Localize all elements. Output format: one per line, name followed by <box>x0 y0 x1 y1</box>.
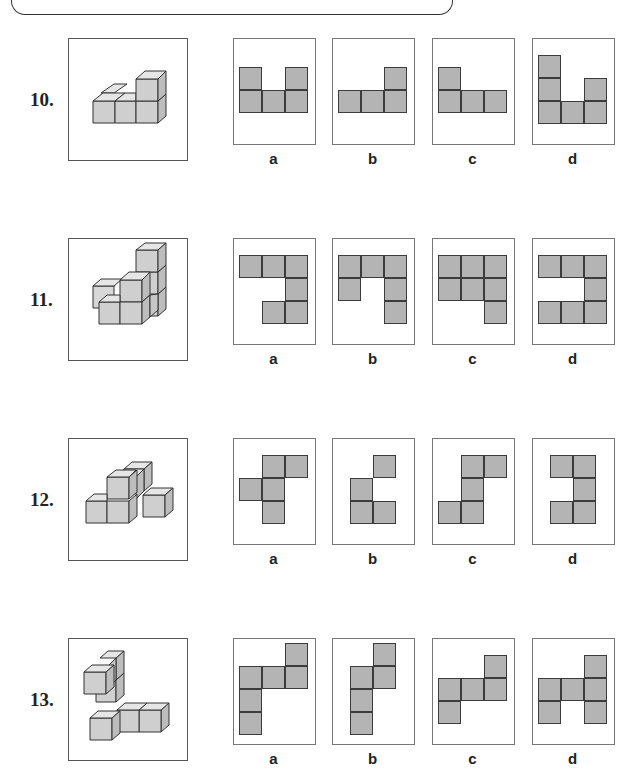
net-square <box>262 90 285 113</box>
question-10: 10. a b c d <box>0 38 635 238</box>
option-c[interactable] <box>432 238 515 345</box>
net-square <box>350 666 373 689</box>
option-d[interactable] <box>532 638 615 745</box>
net-square <box>384 90 407 113</box>
option-label: c <box>432 350 513 367</box>
question-number: 10. <box>30 89 54 111</box>
net-square <box>285 278 308 301</box>
net-square <box>285 255 308 278</box>
net-square <box>550 501 573 524</box>
option-label: c <box>432 550 513 567</box>
net-square <box>550 455 573 478</box>
cube-figure <box>68 638 188 761</box>
option-b[interactable] <box>332 438 415 545</box>
net-square <box>239 255 262 278</box>
top-instruction-panel <box>11 0 453 15</box>
net-square <box>484 255 507 278</box>
cube-figure <box>68 38 188 161</box>
option-label: d <box>532 750 613 767</box>
net-square <box>484 90 507 113</box>
net-square <box>262 478 285 501</box>
question-number: 13. <box>30 689 54 711</box>
option-c[interactable] <box>432 638 515 745</box>
option-label: a <box>233 550 314 567</box>
net-square <box>361 90 384 113</box>
question-11: 11. <box>0 238 635 438</box>
option-b[interactable] <box>332 638 415 745</box>
net-square <box>561 101 584 124</box>
net-square <box>538 78 561 101</box>
option-a[interactable] <box>233 638 316 745</box>
option-label: a <box>233 750 314 767</box>
option-a[interactable] <box>233 438 316 545</box>
net-square <box>573 478 596 501</box>
net-square <box>285 643 308 666</box>
net-square <box>561 678 584 701</box>
net-square <box>538 101 561 124</box>
net-square <box>484 678 507 701</box>
option-a[interactable] <box>233 38 316 145</box>
isometric-cubes-icon <box>69 639 187 760</box>
net-square <box>484 455 507 478</box>
net-square <box>584 678 607 701</box>
cube-figure <box>68 238 188 361</box>
option-label: d <box>532 550 613 567</box>
net-square <box>438 501 461 524</box>
net-square <box>438 67 461 90</box>
net-square <box>350 712 373 735</box>
option-label: a <box>233 350 314 367</box>
option-d[interactable] <box>532 38 615 145</box>
net-square <box>239 712 262 735</box>
net-square <box>438 90 461 113</box>
net-square <box>584 101 607 124</box>
net-square <box>262 255 285 278</box>
option-label: d <box>532 150 613 167</box>
option-c[interactable] <box>432 438 515 545</box>
option-label: b <box>332 150 413 167</box>
net-square <box>584 301 607 324</box>
option-d[interactable] <box>532 238 615 345</box>
net-square <box>373 501 396 524</box>
net-square <box>461 255 484 278</box>
isometric-cubes-icon <box>69 439 187 560</box>
net-square <box>338 90 361 113</box>
option-b[interactable] <box>332 238 415 345</box>
net-square <box>461 90 484 113</box>
net-square <box>384 278 407 301</box>
net-square <box>239 689 262 712</box>
net-square <box>285 455 308 478</box>
net-square <box>461 478 484 501</box>
net-square <box>461 501 484 524</box>
net-square <box>584 701 607 724</box>
option-a[interactable] <box>233 238 316 345</box>
isometric-cubes-icon <box>69 39 187 160</box>
question-number: 11. <box>30 289 53 311</box>
net-square <box>285 67 308 90</box>
question-12: 12. <box>0 438 635 638</box>
option-c[interactable] <box>432 38 515 145</box>
cube-figure <box>68 438 188 561</box>
question-number: 12. <box>30 489 54 511</box>
net-square <box>239 67 262 90</box>
net-square <box>484 655 507 678</box>
net-square <box>350 501 373 524</box>
net-square <box>584 278 607 301</box>
net-square <box>239 666 262 689</box>
net-square <box>561 255 584 278</box>
net-square <box>361 255 384 278</box>
option-label: c <box>432 150 513 167</box>
option-d[interactable] <box>532 438 615 545</box>
net-square <box>461 455 484 478</box>
net-square <box>538 678 561 701</box>
net-square <box>438 701 461 724</box>
net-square <box>573 455 596 478</box>
net-square <box>538 701 561 724</box>
net-square <box>262 501 285 524</box>
net-square <box>584 255 607 278</box>
net-square <box>262 455 285 478</box>
net-square <box>373 643 396 666</box>
option-b[interactable] <box>332 38 415 145</box>
net-square <box>285 301 308 324</box>
net-square <box>350 689 373 712</box>
net-square <box>538 55 561 78</box>
